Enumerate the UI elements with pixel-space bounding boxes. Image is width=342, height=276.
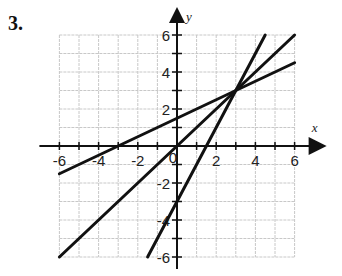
x-axis-label: x: [311, 120, 318, 135]
y-axis-label: y: [184, 9, 192, 24]
x-tick-label: 4: [251, 152, 259, 169]
y-tick-label: 6: [162, 27, 170, 44]
y-tick-label: 4: [162, 64, 170, 81]
y-tick-label: -2: [157, 175, 170, 192]
x-axis-arrow-icon: [309, 137, 327, 155]
y-axis-arrow-icon: [169, 7, 185, 23]
x-tick-label: -2: [131, 152, 144, 169]
x-tick-label: 2: [212, 152, 220, 169]
line-graph: -6-4-2246642-2-4-60xy: [0, 0, 342, 276]
y-tick-label: 2: [162, 101, 170, 118]
y-tick-label: -6: [157, 249, 170, 266]
x-tick-label: 6: [290, 152, 298, 169]
x-tick-label: -6: [53, 152, 66, 169]
